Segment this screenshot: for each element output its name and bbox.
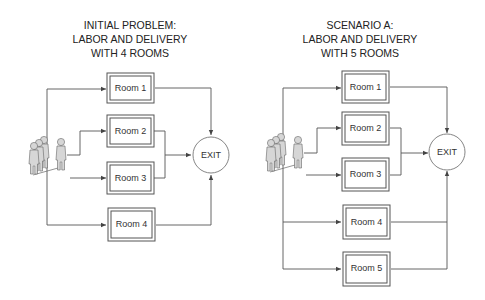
diagram-initial-problem: INITIAL PROBLEM: LABOR AND DELIVERY WITH… — [29, 19, 229, 241]
room-box: Room 1 — [107, 73, 154, 103]
room-box: Room 4 — [343, 205, 390, 239]
title-line-2: LABOR AND DELIVERY — [303, 33, 418, 45]
room-label: Room 3 — [350, 169, 382, 179]
room-label: Room 4 — [351, 217, 383, 227]
room-box: Room 5 — [343, 252, 390, 286]
patients-queue-icon — [29, 136, 66, 175]
room-box: Room 3 — [342, 158, 389, 191]
title-line-1: INITIAL PROBLEM: — [84, 19, 176, 31]
room-label: Room 1 — [115, 83, 147, 93]
room-box: Room 1 — [342, 71, 389, 103]
room-label: Room 4 — [116, 219, 148, 229]
room-label: Room 5 — [351, 263, 383, 273]
room-label: Room 2 — [115, 126, 147, 136]
diagram-scenario-a: SCENARIO A: LABOR AND DELIVERY WITH 5 RO… — [266, 19, 465, 286]
title-line-3: WITH 5 ROOMS — [321, 47, 399, 59]
room-label: Room 1 — [350, 82, 382, 92]
room-label: Room 2 — [350, 123, 382, 133]
title-line-3: WITH 4 ROOMS — [91, 47, 169, 59]
diagram-title: SCENARIO A: LABOR AND DELIVERY WITH 5 RO… — [303, 19, 418, 59]
exit-label: EXIT — [201, 150, 222, 160]
patients-queue-icon — [266, 133, 303, 172]
room-label: Room 3 — [115, 173, 147, 183]
diagram-title: INITIAL PROBLEM: LABOR AND DELIVERY WITH… — [73, 19, 188, 59]
room-box: Room 2 — [107, 115, 154, 147]
title-line-1: SCENARIO A: — [326, 19, 393, 31]
exit-node: EXIT — [193, 137, 229, 173]
room-box: Room 2 — [342, 112, 389, 145]
exit-label: EXIT — [437, 147, 458, 157]
exit-node: EXIT — [429, 134, 465, 170]
title-line-2: LABOR AND DELIVERY — [73, 33, 188, 45]
room-box: Room 3 — [107, 162, 154, 194]
room-box: Room 4 — [108, 208, 155, 241]
flow-connectors — [47, 88, 211, 225]
